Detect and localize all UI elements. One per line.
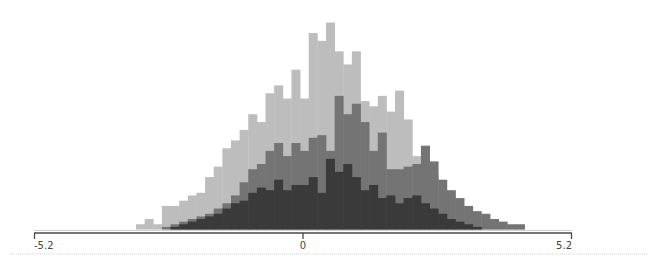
histogram-bar [404, 198, 413, 229]
histogram-bar [231, 203, 240, 229]
histogram-bar [473, 227, 482, 230]
histogram-bar [343, 164, 352, 230]
histogram-bar [490, 219, 499, 229]
histogram-bar [352, 177, 361, 229]
histogram-bar [378, 198, 387, 229]
histogram-bar [188, 222, 197, 230]
histogram-bar [274, 180, 283, 230]
histogram-chart: -5.2 0 5.2 [0, 0, 660, 267]
histogram-bar [196, 219, 205, 229]
histogram-bar [447, 219, 456, 229]
histogram-bar [257, 188, 266, 230]
x-axis: -5.2 0 5.2 [34, 233, 572, 251]
histogram-bars [136, 23, 525, 230]
histogram-bar [412, 195, 421, 229]
histogram-bar [136, 224, 145, 229]
histogram-bar [248, 193, 257, 230]
histogram-bar [326, 159, 335, 230]
histogram-bar [438, 214, 447, 230]
histogram-bar [222, 209, 231, 230]
histogram-bar [395, 203, 404, 229]
histogram-bar [205, 216, 214, 229]
histogram-bar [240, 201, 249, 230]
x-tick-label-zero: 0 [300, 240, 306, 251]
histogram-bar [481, 214, 490, 230]
histogram-bar [360, 190, 369, 229]
histogram-bar [499, 222, 508, 230]
histogram-bar [266, 190, 275, 229]
histogram-bar [430, 209, 439, 230]
histogram-bar [291, 185, 300, 230]
histogram-bar [386, 195, 395, 229]
x-tick-label-min: -5.2 [34, 240, 54, 251]
histogram-bar [455, 222, 464, 230]
histogram-bar [214, 214, 223, 230]
histogram-bar [300, 185, 309, 230]
histogram-bar [162, 227, 171, 230]
histogram-bar [335, 172, 344, 230]
histogram-bar [473, 211, 482, 229]
histogram-bar [317, 193, 326, 230]
histogram-bar [145, 219, 154, 229]
histogram-bar [162, 206, 171, 230]
histogram-bar [309, 177, 318, 229]
histogram-bar [283, 190, 292, 229]
histogram-bar [516, 224, 525, 229]
histogram-bar [421, 203, 430, 229]
histogram-bar [179, 224, 188, 229]
histogram-bar [369, 185, 378, 230]
histogram-bar [153, 224, 162, 229]
x-tick-label-max: 5.2 [556, 240, 572, 251]
histogram-bar [507, 224, 516, 229]
histogram-bar [464, 224, 473, 229]
histogram-bar [171, 227, 180, 230]
